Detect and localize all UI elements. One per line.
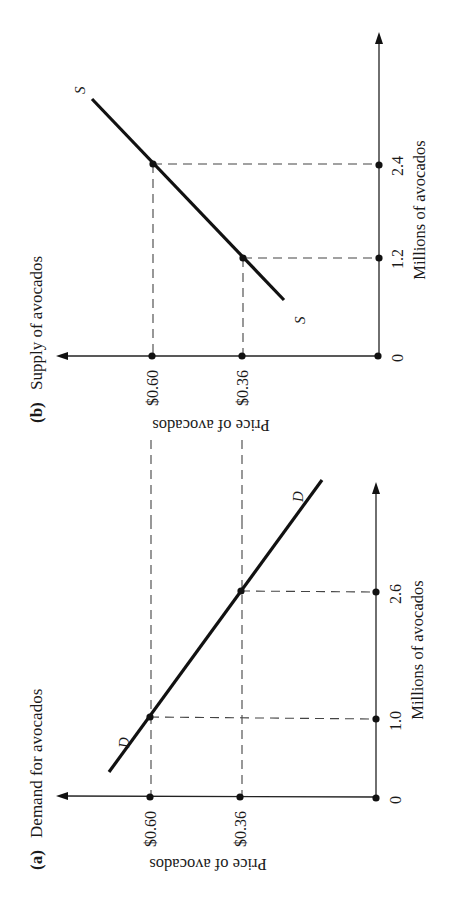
demand-tick-dot-036 xyxy=(236,793,243,800)
supply-qty-tick-0: 0 xyxy=(389,354,406,362)
demand-panel: (a) Demand for avocados D D $0.60 $0.36 … xyxy=(27,480,427,874)
supply-quantity-axis-arrow-icon xyxy=(375,32,383,44)
demand-quantity-axis-label: Millions of avocados xyxy=(408,580,427,719)
demand-title-text: Demand for avocados xyxy=(27,689,46,838)
demand-curve-label-top: D xyxy=(290,491,306,503)
demand-panel-letter: (a) xyxy=(27,850,46,870)
demand-point-low-price xyxy=(237,587,244,594)
supply-tick-dot-2-4 xyxy=(375,161,382,168)
supply-quantity-axis-label: Millions of avocados xyxy=(410,140,429,279)
supply-panel: (b) Supply of avocados S S $0.60 $0.36 0 xyxy=(27,32,429,435)
supply-qty-tick-1-2: 1.2 xyxy=(389,249,406,269)
demand-guide-2-6-to-qty xyxy=(241,591,376,592)
demand-curve-label-bottom: D xyxy=(116,737,132,749)
demand-title: (a) Demand for avocados xyxy=(27,689,46,870)
supply-origin-dot xyxy=(374,352,381,359)
supply-tick-dot-036 xyxy=(238,352,245,359)
demand-tick-dot-2-6 xyxy=(372,588,379,595)
supply-panel-letter: (b) xyxy=(27,402,46,423)
demand-quantity-axis-arrow-icon xyxy=(372,482,380,494)
demand-tick-dot-1-0 xyxy=(372,715,379,722)
demand-price-axis-label: Price of avocados xyxy=(149,855,266,874)
supply-price-tick-060: $0.60 xyxy=(144,370,161,406)
supply-price-axis-label: Price of avocados xyxy=(152,416,269,435)
supply-point-high xyxy=(149,160,156,167)
supply-title-text: Supply of avocados xyxy=(27,256,46,390)
demand-price-tick-036: $0.36 xyxy=(232,811,249,847)
figure-canvas: (b) Supply of avocados S S $0.60 $0.36 0 xyxy=(0,0,449,916)
demand-point-high-price xyxy=(146,713,153,720)
supply-curve-label-bottom: S xyxy=(292,316,308,324)
demand-qty-tick-0: 0 xyxy=(387,796,404,804)
demand-qty-tick-2-6: 2.6 xyxy=(387,584,404,604)
demand-qty-tick-1-0: 1.0 xyxy=(387,711,404,731)
supply-curve-label-top: S xyxy=(72,86,88,94)
supply-qty-tick-2-4: 2.4 xyxy=(389,156,406,176)
supply-price-axis-arrow-icon xyxy=(56,352,68,360)
demand-price-axis-arrow-icon xyxy=(56,792,68,800)
demand-guide-1-0-to-qty xyxy=(150,717,376,719)
demand-tick-dot-060 xyxy=(146,793,153,800)
supply-price-tick-036: $0.36 xyxy=(234,370,251,406)
demand-origin-dot xyxy=(372,794,379,801)
supply-title: (b) Supply of avocados xyxy=(27,256,46,423)
demand-curve xyxy=(109,480,322,772)
supply-point-low xyxy=(239,254,246,261)
demand-price-tick-060: $0.60 xyxy=(142,811,159,847)
supply-tick-dot-060 xyxy=(148,352,155,359)
supply-curve xyxy=(92,99,284,300)
demand-price-axis xyxy=(64,796,376,797)
supply-tick-dot-1-2 xyxy=(375,254,382,261)
